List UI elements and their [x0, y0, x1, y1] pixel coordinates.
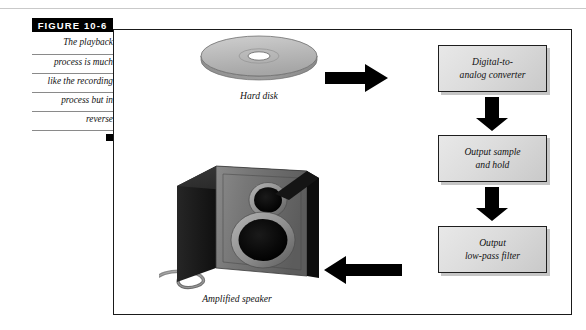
caption-line-text: process but in — [61, 96, 113, 107]
caption-line-text: The playback — [63, 38, 113, 49]
caption-line: process but in — [32, 93, 113, 112]
flow-box-low-pass-line2: low-pass filter — [465, 250, 520, 261]
flow-box-sample-hold-text: Output sampleand hold — [460, 146, 524, 171]
flow-box-sample-hold-line1: Output sample — [464, 146, 520, 157]
flow-box-dac-text: Digital-to-analog converter — [456, 56, 530, 81]
arrow-disk-to-dac — [325, 63, 389, 97]
hard-disk-illustration — [199, 32, 319, 84]
figure-root: FIGURE 10-6 The playback process is much… — [0, 0, 586, 330]
figure-number-tag: FIGURE 10-6 — [32, 18, 113, 32]
hard-disk-label: Hard disk — [174, 90, 344, 101]
flow-box-sample-hold: Output sampleand hold — [438, 135, 547, 182]
caption-line: process is much — [32, 55, 113, 74]
diagram-panel: Hard disk Digital-to-analog converter Ou… — [113, 29, 572, 315]
caption-line-text: like the recording — [48, 77, 113, 88]
arrow-dac-to-sample-hold — [475, 97, 509, 136]
caption-line-text: reverse — [86, 115, 113, 126]
flow-box-dac-line1: Digital-to- — [472, 56, 513, 67]
amplified-speaker-illustration — [159, 158, 349, 293]
flow-box-dac: Digital-to-analog converter — [438, 45, 547, 92]
caption-line-text: process is much — [54, 58, 113, 69]
flow-box-low-pass-line1: Output — [479, 237, 506, 248]
flow-box-sample-hold-line2: and hold — [476, 159, 510, 170]
caption-line: like the recording — [32, 74, 113, 93]
figure-number-label: FIGURE 10-6 — [38, 20, 108, 31]
flow-box-low-pass-text: Outputlow-pass filter — [461, 237, 524, 262]
caption-end-marker — [32, 131, 113, 143]
arrow-sample-hold-to-low-pass — [475, 187, 509, 226]
caption-line: The playback — [32, 32, 113, 55]
flow-box-low-pass: Outputlow-pass filter — [438, 226, 547, 273]
top-divider-rule — [0, 8, 586, 9]
amplified-speaker-label: Amplified speaker — [122, 293, 352, 304]
flow-box-dac-line2: analog converter — [460, 69, 526, 80]
caption-line: reverse — [32, 112, 113, 131]
figure-caption-block: FIGURE 10-6 The playback process is much… — [32, 18, 113, 143]
